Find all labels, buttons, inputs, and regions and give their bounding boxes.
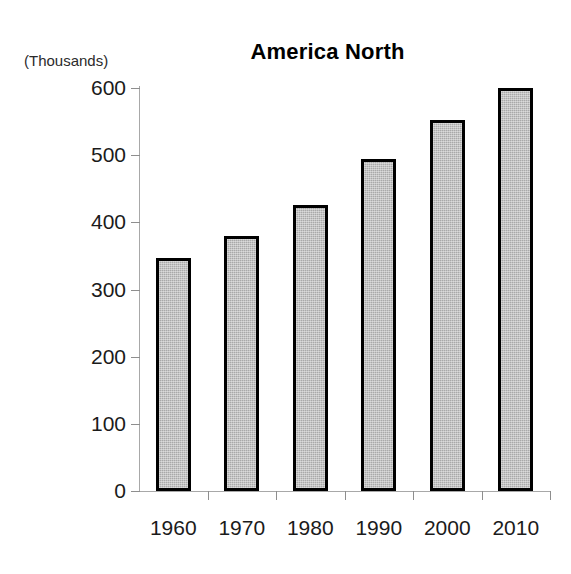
x-axis-tick-label: 2010: [476, 516, 556, 540]
bar: [498, 88, 533, 491]
y-axis-tick-label: 600: [56, 76, 126, 100]
plot-area: [139, 88, 550, 491]
bar: [156, 258, 191, 491]
x-axis-tick: [482, 491, 483, 500]
x-axis-tick: [550, 491, 551, 500]
y-axis-tick-label: 300: [56, 278, 126, 302]
bar: [293, 205, 328, 491]
bar-chart-figure: (Thousands) America North 60050040030020…: [0, 0, 571, 574]
x-axis-tick: [345, 491, 346, 500]
y-axis-tick-label: 200: [56, 345, 126, 369]
y-axis-tick-label: 400: [56, 210, 126, 234]
y-axis-tick-label: 500: [56, 143, 126, 167]
y-axis-tick-label: 100: [56, 412, 126, 436]
chart-title: America North: [0, 39, 571, 65]
y-axis-tick-label: 0: [56, 479, 126, 503]
bar: [361, 159, 396, 491]
y-axis-tick: [131, 491, 140, 492]
bar: [224, 236, 259, 491]
bar: [430, 120, 465, 491]
x-axis-tick: [413, 491, 414, 500]
x-axis-tick: [208, 491, 209, 500]
x-axis-tick: [276, 491, 277, 500]
